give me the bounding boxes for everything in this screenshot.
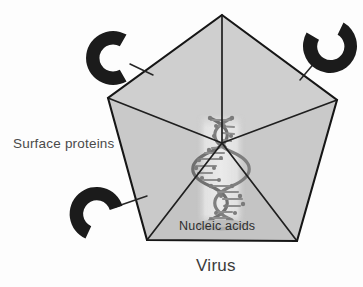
interior-panel <box>196 114 246 228</box>
nucleic-acids-label: Nucleic acids <box>179 219 255 233</box>
surface-proteins-label: Surface proteins <box>13 136 115 151</box>
capsid-interior-window <box>196 114 246 228</box>
surface-protein-spike-bottom-left <box>70 187 123 239</box>
capsid-group <box>108 15 337 241</box>
virus-caption: Virus <box>196 256 236 276</box>
surface-protein-spike-top-right <box>303 23 357 73</box>
surface-protein-spike-top-left <box>86 31 126 85</box>
